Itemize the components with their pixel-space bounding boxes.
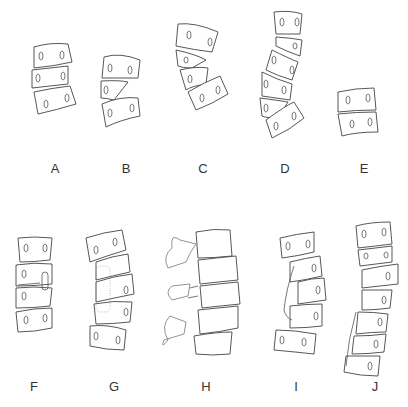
panel-h-drawing xyxy=(163,229,240,355)
panel-label-j: J xyxy=(365,379,385,394)
panel-j-drawing xyxy=(344,222,398,376)
vertebrae-illustration xyxy=(0,0,408,407)
panel-label-b: B xyxy=(116,161,136,176)
panel-label-f: F xyxy=(24,379,44,394)
panel-g-drawing xyxy=(86,230,134,350)
panel-label-a: A xyxy=(45,161,65,176)
panel-label-e: E xyxy=(354,161,374,176)
panel-i-drawing xyxy=(274,232,326,354)
panel-label-c: C xyxy=(193,161,213,176)
panel-b-drawing xyxy=(101,55,140,127)
panel-label-d: D xyxy=(275,161,295,176)
panel-e-drawing xyxy=(338,88,378,136)
panel-label-g: G xyxy=(104,379,124,394)
panel-a-drawing xyxy=(32,43,76,114)
panel-label-h: H xyxy=(196,379,216,394)
panel-d-drawing xyxy=(260,11,304,138)
panel-label-i: I xyxy=(286,379,306,394)
panel-c-drawing xyxy=(176,24,228,110)
panel-f-drawing xyxy=(16,237,52,332)
